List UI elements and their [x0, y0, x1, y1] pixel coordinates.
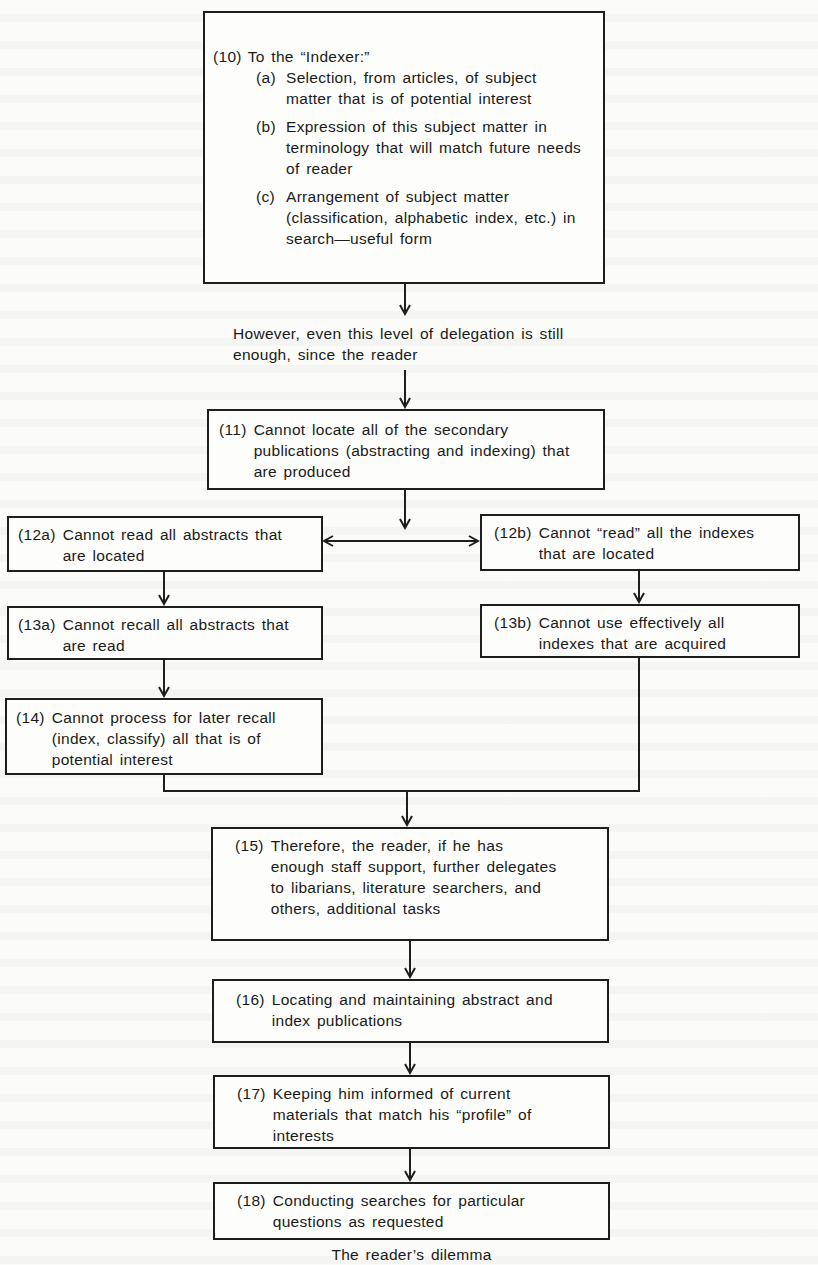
node-17: (17) Keeping him informed of current mat… [213, 1075, 610, 1149]
node-12b: (12b) Cannot “read” all the indexes that… [480, 514, 800, 571]
bridge-text: However, even this level of delegation i… [233, 323, 593, 365]
node-11: (11) Cannot locate all of the secondary … [207, 409, 605, 490]
node-16: (16) Locating and maintaining abstract a… [212, 979, 609, 1043]
subitem-a: (a) Selection, from articles, of subject… [256, 67, 587, 109]
node-14: (14) Cannot process for later recall (in… [5, 698, 323, 775]
subitem-c: (c) Arrangement of subject matter (class… [256, 186, 587, 249]
node-15: (15) Therefore, the reader, if he has en… [211, 827, 609, 941]
figure-caption: The reader’s dilemma [213, 1244, 610, 1265]
node-number: (10) [213, 46, 242, 67]
node-13b: (13b) Cannot use effectively all indexes… [480, 604, 800, 658]
node-12a: (12a) Cannot read all abstracts that are… [7, 516, 323, 572]
subitem-b: (b) Expression of this subject matter in… [256, 116, 587, 179]
node-title: To the “Indexer:” [242, 46, 587, 67]
node-18: (18) Conducting searches for particular … [213, 1182, 610, 1240]
node-13a: (13a) Cannot recall all abstracts that a… [7, 606, 323, 660]
node-10-indexer: (10) To the “Indexer:” (a) Selection, fr… [203, 11, 605, 284]
